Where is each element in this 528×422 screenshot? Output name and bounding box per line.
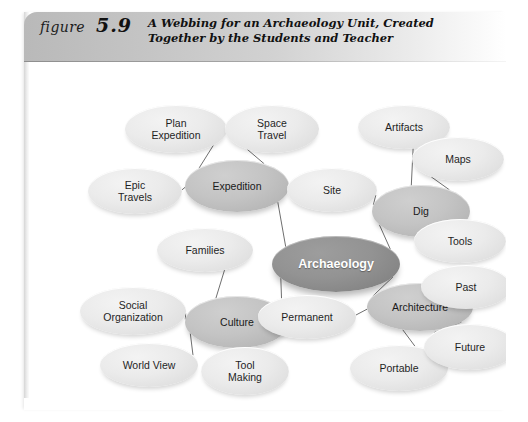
web-node-expedition[interactable]: Expedition — [185, 160, 289, 212]
web-node-site[interactable]: Site — [287, 168, 377, 212]
web-node-label: Portable — [375, 362, 422, 375]
web-node-label: SocialOrganization — [99, 299, 167, 324]
web-node-families[interactable]: Families — [157, 228, 253, 272]
web-node-label: ToolMaking — [224, 359, 266, 384]
web-node-past[interactable]: Past — [421, 265, 506, 309]
web-node-label: Expedition — [208, 180, 265, 193]
web-node-future[interactable]: Future — [424, 324, 506, 370]
web-node-label: Families — [181, 244, 228, 257]
web-node-tools[interactable]: Tools — [414, 219, 506, 263]
web-node-label: Maps — [441, 153, 475, 166]
web-node-epic-travels[interactable]: EpicTravels — [88, 168, 182, 214]
web-node-label: EpicTravels — [114, 179, 156, 204]
connector-culture-to-families — [216, 270, 225, 298]
web-node-label: Dig — [409, 205, 433, 218]
web-node-label: SpaceTravel — [253, 117, 291, 142]
figure-label: figure — [40, 19, 85, 35]
concept-web-diagram: ArchaeologyExpeditionDigCultureArchitect… — [29, 62, 506, 410]
web-node-archaeology[interactable]: Archaeology — [272, 236, 400, 292]
web-node-permanent[interactable]: Permanent — [258, 295, 356, 339]
web-node-world-view[interactable]: World View — [100, 343, 198, 387]
connector-architecture-to-permanent — [356, 309, 367, 315]
web-node-label: Future — [451, 341, 489, 354]
figure-caption-line-1: A Webbing for an Archaeology Unit, Creat… — [148, 16, 478, 31]
web-node-label: Past — [451, 281, 480, 294]
web-node-label: World View — [119, 359, 180, 372]
web-node-label: Tools — [444, 235, 477, 248]
web-node-plan-expedition[interactable]: PlanExpedition — [125, 105, 227, 153]
figure-number: 5.9 — [96, 14, 132, 36]
web-node-label: Culture — [216, 316, 258, 329]
web-node-maps[interactable]: Maps — [412, 137, 504, 181]
web-node-label: Artifacts — [381, 121, 427, 134]
web-node-label: Site — [319, 184, 345, 197]
connector-architecture-to-portable — [403, 330, 415, 347]
web-node-space-travel[interactable]: SpaceTravel — [225, 105, 319, 153]
web-node-label: Permanent — [277, 311, 336, 324]
web-node-label: Archaeology — [294, 258, 378, 271]
connector-culture-to-world-view — [190, 333, 193, 355]
web-node-tool-making[interactable]: ToolMaking — [201, 347, 289, 395]
connector-archaeology-to-expedition — [278, 202, 286, 247]
figure-caption: A Webbing for an Archaeology Unit, Creat… — [148, 16, 478, 46]
figure-caption-line-2: Together by the Students and Teacher — [148, 31, 478, 46]
web-node-label: PlanExpedition — [147, 117, 204, 142]
web-node-social-organization[interactable]: SocialOrganization — [80, 287, 186, 335]
